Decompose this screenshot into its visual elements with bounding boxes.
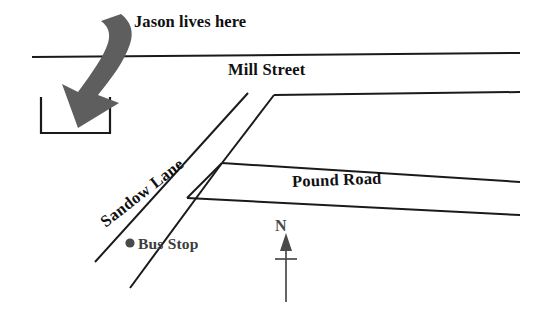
pound-road-label: Pound Road <box>292 171 382 191</box>
pointer-arrow-icon <box>62 14 132 128</box>
north-label: N <box>275 218 287 234</box>
jason-lives-here-label: Jason lives here <box>134 14 246 31</box>
bus-stop-dot-icon <box>125 238 134 247</box>
mill-street-label: Mill Street <box>228 62 306 79</box>
pound-road-south-edge <box>187 198 520 215</box>
sandow-pound-junction-edge <box>187 163 222 198</box>
map-drawing <box>0 0 546 329</box>
mill-street-south-edge <box>274 92 520 95</box>
mill-sandow-junction-edge <box>222 95 274 163</box>
compass-north-icon <box>275 233 297 302</box>
bus-stop-label: Bus Stop <box>138 236 199 252</box>
street-map: Jason lives here Mill Street Pound Road … <box>0 0 546 329</box>
